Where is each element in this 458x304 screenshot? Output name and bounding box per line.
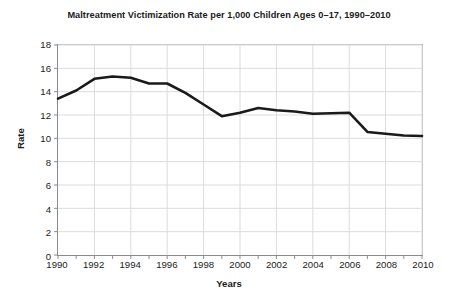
chart-title: Maltreatment Victimization Rate per 1,00… — [0, 10, 458, 20]
x-axis-title: Years — [0, 278, 458, 289]
x-axis-tick-label: 2002 — [266, 259, 287, 270]
x-axis-tick-label: 1998 — [193, 259, 214, 270]
y-axis-tick-label: 6 — [46, 180, 51, 191]
y-axis-tick-label: 4 — [46, 203, 51, 214]
data-series-line — [58, 45, 422, 255]
x-axis-tick-label: 2000 — [229, 259, 250, 270]
y-axis-tick-label: 8 — [46, 156, 51, 167]
y-axis-tick-label: 14 — [40, 86, 51, 97]
y-axis-tick-label: 16 — [40, 62, 51, 73]
y-axis-tick-label: 12 — [40, 109, 51, 120]
x-axis-tick-label: 1992 — [83, 259, 104, 270]
x-axis-tick-label: 2004 — [303, 259, 324, 270]
x-axis-tick-label: 1994 — [120, 259, 141, 270]
y-axis-tick-label: 18 — [40, 39, 51, 50]
chart-page: Maltreatment Victimization Rate per 1,00… — [0, 0, 458, 304]
y-axis-tick-label: 2 — [46, 227, 51, 238]
y-axis-tick-label: 10 — [40, 133, 51, 144]
x-axis-tick-label: 2010 — [412, 259, 433, 270]
y-axis-tick-labels: 024681012141618 — [13, 44, 51, 256]
x-axis-tick-label: 2006 — [339, 259, 360, 270]
x-axis-tick-labels: 1990199219941996199820002002200420062008… — [57, 259, 423, 275]
x-axis-tick-label: 1996 — [156, 259, 177, 270]
x-axis-tick-label: 1990 — [46, 259, 67, 270]
plot-area — [57, 44, 423, 256]
x-axis-tick-label: 2008 — [376, 259, 397, 270]
series-line-maltreatment-rate — [58, 77, 422, 137]
